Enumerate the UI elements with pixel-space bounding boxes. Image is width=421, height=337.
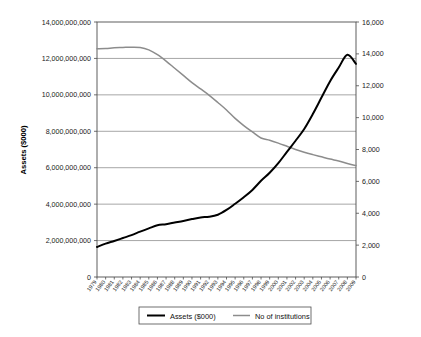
dual-axis-line-chart: 02,000,000,0004,000,000,0006,000,000,000…: [0, 0, 421, 337]
left-axis-tick-label: 12,000,000,000: [42, 55, 91, 63]
left-axis-tick-label: 8,000,000,000: [46, 128, 91, 136]
legend-label-no-of-institutions: No of institutions: [255, 312, 310, 321]
right-axis-tick-label: 16,000: [362, 19, 384, 27]
right-axis-tick-label: 2,000: [362, 242, 380, 250]
chart-figure: 02,000,000,0004,000,000,0006,000,000,000…: [0, 0, 421, 337]
left-axis-tick-label: 14,000,000,000: [42, 19, 91, 27]
left-axis-tick-label: 4,000,000,000: [46, 201, 91, 209]
right-axis-tick-label: 4,000: [362, 210, 380, 218]
right-axis-tick-label: 6,000: [362, 178, 380, 186]
y-axis-title: Assets ($000): [19, 125, 28, 174]
left-axis-tick-label: 6,000,000,000: [46, 164, 91, 172]
right-axis-tick-label: 10,000: [362, 114, 384, 122]
left-axis-tick-label: 2,000,000,000: [46, 237, 91, 245]
left-axis-tick-label: 0: [87, 274, 91, 282]
x-axis-labels: 1979198019811982198319841985198619871988…: [86, 277, 357, 292]
right-axis-tick-label: 12,000: [362, 82, 384, 90]
chart-legend: Assets ($000) No of institutions: [139, 307, 311, 324]
right-axis-tick-label: 14,000: [362, 50, 384, 58]
left-axis-tick-label: 10,000,000,000: [42, 91, 91, 99]
right-axis-tick-label: 0: [362, 274, 366, 282]
legend-label-assets: Assets ($000): [170, 312, 216, 321]
right-axis-tick-label: 8,000: [362, 146, 380, 154]
